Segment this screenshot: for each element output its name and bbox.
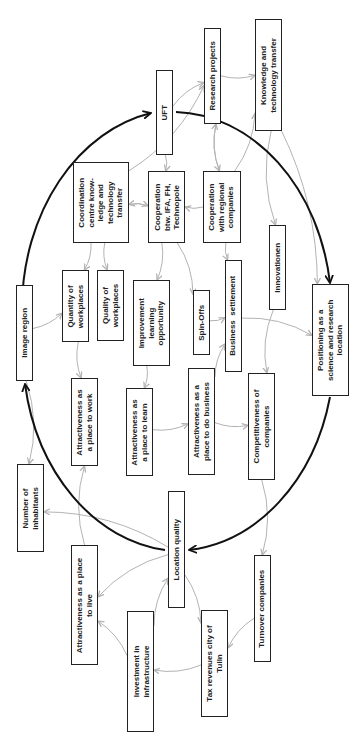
edge-arrow bbox=[153, 424, 188, 430]
edge-arrow bbox=[225, 243, 227, 260]
edge-arrow bbox=[235, 113, 255, 171]
edge-arrow bbox=[154, 578, 168, 625]
node-knowledge: Knowledge and technology transfer bbox=[255, 19, 282, 131]
edge-arrow bbox=[44, 512, 168, 547]
edge-arrow bbox=[242, 318, 312, 335]
node-positioning: Positioning as a science and research lo… bbox=[312, 284, 349, 396]
edge-arrow bbox=[177, 243, 193, 294]
node-label: Tax revenues city of Tulln bbox=[205, 625, 224, 701]
node-competitiveness: Competitiveness of companies bbox=[248, 373, 275, 480]
edge-arrow bbox=[221, 75, 255, 78]
node-improvement: Improvement learning opportunity bbox=[133, 280, 170, 366]
edge-arrow bbox=[98, 621, 127, 655]
node-investment: Investment in infrastructure bbox=[127, 611, 154, 732]
node-research: Research projects bbox=[204, 28, 221, 124]
node-quality: Quality of workplaces bbox=[97, 270, 124, 341]
node-attr-learn: Attractiveness as a place to learn bbox=[126, 388, 153, 476]
node-coop-ifa: Cooperation btw. IFA, FH, Technopole bbox=[148, 171, 185, 243]
node-label: Number of inhabitants bbox=[21, 487, 40, 530]
node-uft: UFT bbox=[156, 70, 173, 155]
node-coordination: Coordination centre know- ledge and tech… bbox=[73, 162, 129, 243]
edge-arrow bbox=[165, 155, 166, 171]
node-location: Location quality bbox=[168, 491, 185, 608]
edge-arrow bbox=[104, 243, 107, 270]
causal-loop-diagram bbox=[0, 0, 361, 753]
edge-arrow bbox=[77, 342, 81, 378]
node-label: Improvement learning opportunity bbox=[137, 298, 166, 348]
node-label: Innovationen bbox=[273, 243, 283, 293]
edge-arrow bbox=[154, 665, 201, 672]
node-label: Attractiveness as a place to learn bbox=[130, 399, 149, 465]
edge-arrow bbox=[266, 131, 275, 225]
node-label: Cooperation btw. IFA, FH, Technopole bbox=[152, 183, 181, 231]
node-attr-live: Attractiveness as a place to live bbox=[71, 545, 98, 665]
node-turnover: Turnover companies bbox=[254, 555, 271, 662]
node-label: Competitiveness of companies bbox=[252, 390, 271, 464]
edge-arrow bbox=[282, 131, 318, 284]
node-tax: Tax revenues city of Tulln bbox=[201, 610, 228, 717]
node-inhabitants: Number of inhabitants bbox=[17, 464, 44, 552]
main-loop-arc bbox=[176, 112, 330, 283]
node-label: Quantity of workplaces bbox=[66, 284, 85, 328]
node-quantity: Quantity of workplaces bbox=[62, 270, 89, 342]
edge-arrow bbox=[185, 575, 201, 623]
node-label: Positioning as a science and research lo… bbox=[316, 299, 345, 380]
node-label: Attractiveness as a place to work bbox=[75, 389, 94, 455]
node-business: Business settlement bbox=[225, 260, 242, 372]
edge-arrow bbox=[228, 618, 254, 648]
node-label: Turnover companies bbox=[258, 569, 268, 647]
edge-arrow bbox=[84, 243, 91, 270]
node-label: Business settlement bbox=[229, 276, 239, 356]
edge-arrow bbox=[157, 243, 163, 280]
node-label: Quality of workplaces bbox=[101, 284, 120, 328]
edge-arrow bbox=[215, 423, 248, 427]
edge-arrow bbox=[129, 204, 148, 206]
node-label: Investment in infrastructure bbox=[131, 645, 150, 697]
node-label: Location quality bbox=[172, 519, 182, 580]
edge-arrow bbox=[185, 207, 203, 208]
node-attr-work: Attractiveness as a place to work bbox=[71, 378, 98, 466]
node-label: Cooperation with regional companies bbox=[208, 182, 237, 231]
node-label: Coordination centre know- ledge and tech… bbox=[77, 178, 125, 228]
node-coop-regional: Cooperation with regional companies bbox=[203, 171, 241, 243]
node-attr-business: Attractiveness as a place to do business bbox=[188, 368, 215, 475]
edge-arrow bbox=[214, 124, 219, 171]
node-label: Research projects bbox=[208, 41, 218, 110]
edge-arrow bbox=[144, 366, 147, 388]
node-label: Attractiveness as a place to live bbox=[75, 557, 94, 653]
edge-arrow bbox=[210, 318, 225, 321]
node-label: UFT bbox=[160, 105, 170, 121]
node-innovationen: Innovationen bbox=[269, 225, 286, 310]
edge-arrow bbox=[33, 313, 62, 328]
node-image-region: Image region bbox=[16, 285, 33, 381]
node-spinoffs: Spin-Offs bbox=[193, 290, 210, 355]
edge-arrow bbox=[98, 555, 168, 597]
node-label: Attractiveness as a place to do business bbox=[192, 382, 211, 461]
node-label: Knowledge and technology transfer bbox=[259, 38, 278, 113]
node-label: Spin-Offs bbox=[197, 305, 207, 341]
node-label: Image region bbox=[20, 308, 30, 358]
edge-arrow bbox=[215, 344, 225, 377]
